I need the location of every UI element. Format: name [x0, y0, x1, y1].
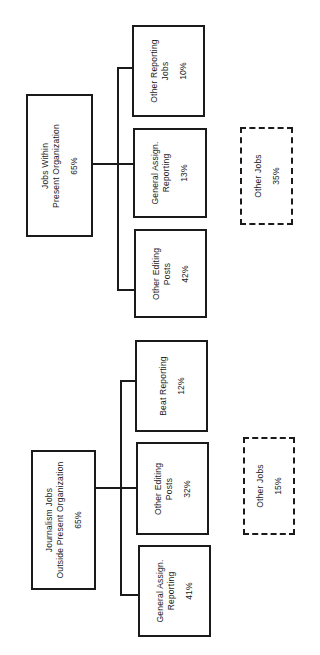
connector-branch-3	[117, 289, 135, 291]
child-label-line1: Other Editing	[153, 462, 164, 514]
other-jobs-percent: 35%	[270, 154, 281, 198]
child-percent: 32%	[182, 462, 193, 514]
root-label-line1: Jobs Within	[40, 124, 51, 208]
child-label-line2: Jobs	[160, 39, 171, 102]
child-box-other-reporting-jobs: Other Reporting Jobs 10%	[132, 25, 205, 117]
other-jobs-label: Other Jobs	[252, 154, 263, 198]
root-label-line1: Journalism Jobs	[44, 461, 55, 578]
child-percent: 41%	[184, 559, 195, 622]
root-percent: 65%	[73, 461, 84, 578]
child-label-line1: General Assign.	[155, 559, 166, 622]
child-box-other-editing-posts: Other Editing Posts 42%	[134, 229, 207, 318]
connector-root-to-trunk	[93, 163, 118, 165]
root-box-jobs-within: Jobs Within Present Organization 65%	[26, 94, 93, 237]
connector-branch-2	[117, 163, 134, 165]
child-label-line1: Other Editing	[151, 247, 162, 299]
child-box-general-assign-reporting: General Assign. Reporting 13%	[133, 128, 207, 218]
root-label-line2: Outside Present Organization	[55, 461, 66, 578]
child-label-line1: General Assign.	[150, 141, 161, 204]
other-jobs-box: Other Jobs 15%	[243, 437, 295, 535]
child-label-line1: Beat Reporting	[157, 356, 168, 416]
root-percent: 65%	[69, 124, 80, 208]
connector-branch-1	[117, 67, 133, 69]
trunk-line	[117, 67, 119, 291]
child-percent: 10%	[178, 39, 189, 102]
child-box-general-assign-reporting: General Assign. Reporting 41%	[138, 545, 211, 637]
other-jobs-percent: 15%	[273, 464, 284, 508]
child-box-other-editing-posts: Other Editing Posts 32%	[136, 442, 209, 535]
child-box-beat-reporting: Beat Reporting 12%	[135, 340, 208, 432]
child-percent: 12%	[175, 356, 186, 416]
child-label-line1: Other Reporting	[149, 39, 160, 102]
child-percent: 13%	[179, 141, 190, 204]
other-jobs-label: Other Jobs	[255, 464, 266, 508]
root-label-line2: Present Organization	[51, 124, 62, 208]
other-jobs-box: Other Jobs 35%	[240, 127, 293, 225]
connector-branch-2	[120, 487, 137, 489]
child-label-line2: Posts	[164, 462, 175, 514]
child-label-line2: Posts	[162, 247, 173, 299]
connector-root-to-trunk	[96, 487, 121, 489]
connector-branch-1	[120, 380, 136, 382]
root-box-journalism-outside: Journalism Jobs Outside Present Organiza…	[31, 450, 96, 590]
child-label-line2: Reporting	[166, 559, 177, 622]
child-label-line2: Reporting	[161, 141, 172, 204]
child-percent: 42%	[180, 247, 191, 299]
connector-branch-3	[120, 594, 139, 596]
